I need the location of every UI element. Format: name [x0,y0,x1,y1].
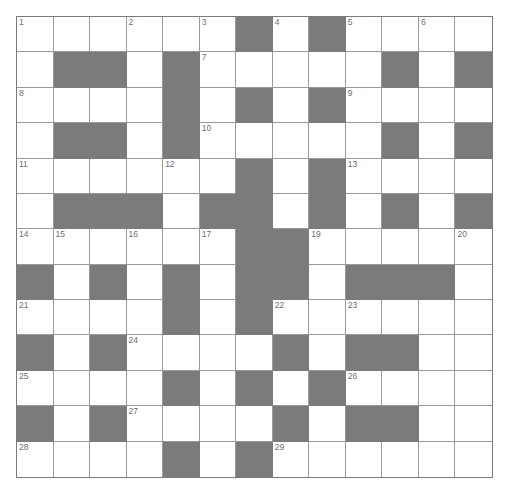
grid-cell[interactable] [273,123,310,158]
grid-cell[interactable] [163,335,200,370]
grid-cell[interactable] [54,265,91,300]
grid-cell[interactable] [163,194,200,229]
grid-cell[interactable]: 28 [17,442,54,477]
grid-cell[interactable]: 15 [54,229,91,264]
grid-cell[interactable]: 3 [200,17,237,52]
grid-cell[interactable] [309,265,346,300]
grid-cell[interactable] [90,17,127,52]
grid-cell[interactable] [127,88,164,123]
grid-cell[interactable] [455,159,492,194]
grid-cell[interactable] [273,88,310,123]
grid-cell[interactable]: 8 [17,88,54,123]
grid-cell[interactable] [17,194,54,229]
grid-cell[interactable] [309,406,346,441]
grid-cell[interactable] [90,229,127,264]
grid-cell[interactable] [163,229,200,264]
grid-cell[interactable]: 24 [127,335,164,370]
grid-cell[interactable] [127,265,164,300]
grid-cell[interactable] [309,123,346,158]
grid-cell[interactable]: 11 [17,159,54,194]
grid-cell[interactable]: 21 [17,300,54,335]
grid-cell[interactable] [127,300,164,335]
grid-cell[interactable]: 19 [309,229,346,264]
grid-cell[interactable] [236,52,273,87]
grid-cell[interactable] [273,371,310,406]
grid-cell[interactable] [273,194,310,229]
grid-cell[interactable]: 1 [17,17,54,52]
grid-cell[interactable] [127,442,164,477]
grid-cell[interactable] [200,406,237,441]
grid-cell[interactable]: 2 [127,17,164,52]
grid-cell[interactable] [54,406,91,441]
grid-cell[interactable] [127,371,164,406]
grid-cell[interactable] [419,371,456,406]
grid-cell[interactable] [200,335,237,370]
grid-cell[interactable]: 12 [163,159,200,194]
grid-cell[interactable]: 10 [200,123,237,158]
grid-cell[interactable] [455,88,492,123]
grid-cell[interactable] [309,300,346,335]
grid-cell[interactable] [309,335,346,370]
grid-cell[interactable] [309,442,346,477]
grid-cell[interactable]: 29 [273,442,310,477]
grid-cell[interactable] [90,88,127,123]
grid-cell[interactable] [273,52,310,87]
grid-cell[interactable] [200,442,237,477]
grid-cell[interactable] [200,265,237,300]
grid-cell[interactable] [419,442,456,477]
grid-cell[interactable] [455,406,492,441]
grid-cell[interactable] [236,123,273,158]
grid-cell[interactable]: 6 [419,17,456,52]
grid-cell[interactable] [200,159,237,194]
grid-cell[interactable] [346,442,383,477]
grid-cell[interactable]: 27 [127,406,164,441]
grid-cell[interactable] [382,17,419,52]
grid-cell[interactable] [382,442,419,477]
grid-cell[interactable]: 5 [346,17,383,52]
grid-cell[interactable]: 16 [127,229,164,264]
grid-cell[interactable] [455,265,492,300]
grid-cell[interactable] [54,371,91,406]
grid-cell[interactable] [346,229,383,264]
grid-cell[interactable] [419,300,456,335]
grid-cell[interactable] [90,159,127,194]
grid-cell[interactable] [419,406,456,441]
grid-cell[interactable] [419,194,456,229]
grid-cell[interactable] [455,17,492,52]
grid-cell[interactable] [54,159,91,194]
grid-cell[interactable] [382,159,419,194]
grid-cell[interactable] [455,371,492,406]
grid-cell[interactable] [236,335,273,370]
grid-cell[interactable] [54,442,91,477]
grid-cell[interactable] [200,300,237,335]
grid-cell[interactable] [90,300,127,335]
grid-cell[interactable] [419,229,456,264]
grid-cell[interactable] [236,406,273,441]
grid-cell[interactable] [54,300,91,335]
grid-cell[interactable]: 4 [273,17,310,52]
grid-cell[interactable]: 14 [17,229,54,264]
grid-cell[interactable] [346,52,383,87]
grid-cell[interactable] [346,194,383,229]
grid-cell[interactable] [382,88,419,123]
grid-cell[interactable] [17,123,54,158]
grid-cell[interactable] [419,335,456,370]
grid-cell[interactable]: 26 [346,371,383,406]
grid-cell[interactable]: 22 [273,300,310,335]
grid-cell[interactable] [90,371,127,406]
grid-cell[interactable] [419,123,456,158]
grid-cell[interactable] [127,52,164,87]
grid-cell[interactable] [273,159,310,194]
grid-cell[interactable] [382,371,419,406]
grid-cell[interactable]: 23 [346,300,383,335]
grid-cell[interactable]: 9 [346,88,383,123]
grid-cell[interactable] [455,335,492,370]
grid-cell[interactable] [382,229,419,264]
grid-cell[interactable] [90,442,127,477]
grid-cell[interactable]: 13 [346,159,383,194]
grid-cell[interactable] [419,159,456,194]
grid-cell[interactable] [309,52,346,87]
grid-cell[interactable] [163,17,200,52]
grid-cell[interactable] [382,300,419,335]
grid-cell[interactable] [54,88,91,123]
